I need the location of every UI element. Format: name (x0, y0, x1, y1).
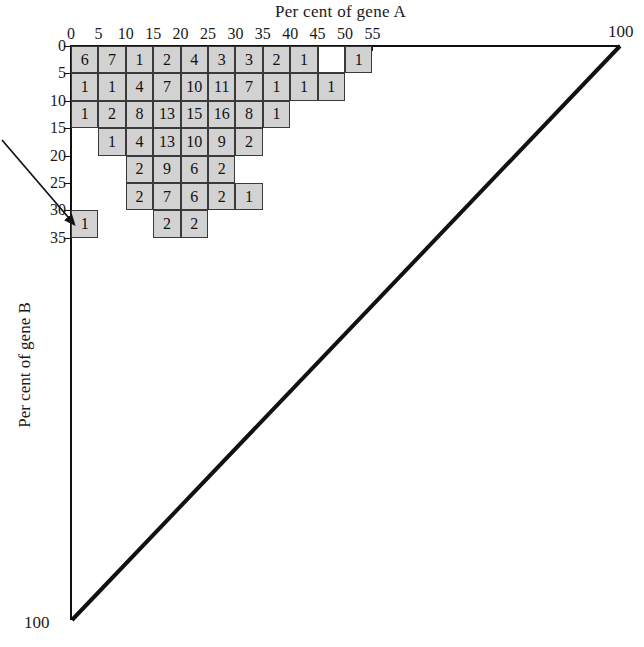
grid-cell: 1 (98, 73, 125, 100)
figure-canvas: Per cent of gene A Per cent of gene B 10… (0, 0, 644, 647)
grid-cell: 9 (208, 128, 235, 155)
grid-cell: 2 (98, 101, 125, 128)
grid-cell: 1 (345, 46, 372, 73)
grid-cell: 1 (235, 183, 262, 210)
grid-cell: 3 (235, 46, 262, 73)
grid-cell: 8 (126, 101, 153, 128)
grid-cell: 10 (181, 128, 208, 155)
grid-cell: 8 (235, 101, 262, 128)
grid-cell: 1 (126, 46, 153, 73)
grid-cell: 2 (208, 183, 235, 210)
grid-cell: 4 (181, 46, 208, 73)
grid-cell: 6 (71, 46, 98, 73)
grid-cell: 7 (153, 73, 180, 100)
grid-cell: 6 (181, 156, 208, 183)
grid-cell: 2 (153, 46, 180, 73)
grid-cell: 7 (235, 73, 262, 100)
grid-cell: 1 (71, 73, 98, 100)
grid-cell: 2 (235, 128, 262, 155)
frequency-grid: 6712433211114710117111128131516811413109… (0, 0, 644, 647)
grid-cell: 13 (153, 128, 180, 155)
grid-cell: 7 (153, 183, 180, 210)
grid-cell: 2 (153, 210, 180, 237)
grid-cell: 3 (208, 46, 235, 73)
grid-cell: 2 (126, 156, 153, 183)
grid-cell: 1 (263, 73, 290, 100)
grid-cell: 6 (181, 183, 208, 210)
grid-cell: 1 (71, 101, 98, 128)
grid-cell: 11 (208, 73, 235, 100)
grid-cell: 13 (153, 101, 180, 128)
grid-cell: 4 (126, 73, 153, 100)
grid-cell: 9 (153, 156, 180, 183)
grid-cell: 2 (181, 210, 208, 237)
grid-cell: 1 (290, 73, 317, 100)
grid-cell: 1 (263, 101, 290, 128)
grid-cell: 16 (208, 101, 235, 128)
grid-cell: 1 (318, 73, 345, 100)
grid-cell: 15 (181, 101, 208, 128)
grid-cell: 1 (71, 210, 98, 237)
grid-cell: 1 (290, 46, 317, 73)
grid-cell: 7 (98, 46, 125, 73)
grid-cell: 4 (126, 128, 153, 155)
grid-cell: 10 (181, 73, 208, 100)
grid-cell: 2 (126, 183, 153, 210)
grid-cell: 2 (208, 156, 235, 183)
grid-cell: 1 (98, 128, 125, 155)
grid-cell: 2 (263, 46, 290, 73)
grid-cell-empty (318, 46, 345, 73)
